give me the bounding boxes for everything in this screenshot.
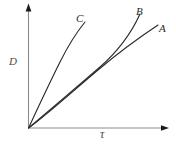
curve-label-c: C: [76, 13, 83, 24]
curve-b-path: [29, 14, 141, 128]
curve-c-path: [29, 22, 86, 128]
arrow-right-icon: [161, 125, 169, 131]
plot-canvas: [0, 0, 176, 149]
y-axis-label: D: [9, 56, 17, 67]
curve-a-path: [29, 25, 159, 128]
creep-curve-figure: D τ A B C: [0, 0, 176, 149]
x-axis-label: τ: [100, 128, 104, 140]
curve-label-b: B: [136, 6, 143, 17]
arrow-up-icon: [26, 4, 32, 12]
curve-label-a: A: [159, 23, 166, 34]
